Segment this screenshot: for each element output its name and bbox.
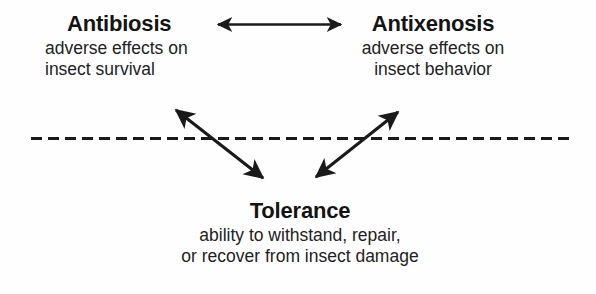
node-antibiosis: Antibiosis adverse effects on insect sur… <box>45 11 188 80</box>
node-antixenosis-desc-line-2: insect behavior <box>318 59 548 80</box>
node-tolerance-desc-line-1: ability to withstand, repair, <box>110 225 490 246</box>
node-antibiosis-desc-line-1: adverse effects on <box>45 38 188 59</box>
node-antixenosis-desc-line-1: adverse effects on <box>318 38 548 59</box>
node-antibiosis-title: Antibiosis <box>67 11 188 36</box>
node-tolerance-desc-line-2: or recover from insect damage <box>110 246 490 267</box>
right-diagonal-double-arrow <box>316 112 398 177</box>
resistance-mechanisms-diagram: Antibiosis adverse effects on insect sur… <box>0 0 596 294</box>
node-tolerance-title: Tolerance <box>110 198 490 223</box>
left-diagonal-double-arrow <box>176 110 263 178</box>
node-tolerance: Tolerance ability to withstand, repair, … <box>110 198 490 267</box>
node-antixenosis: Antixenosis adverse effects on insect be… <box>318 11 548 80</box>
node-antibiosis-desc-line-2: insect survival <box>45 59 188 80</box>
node-antixenosis-title: Antixenosis <box>318 11 548 36</box>
